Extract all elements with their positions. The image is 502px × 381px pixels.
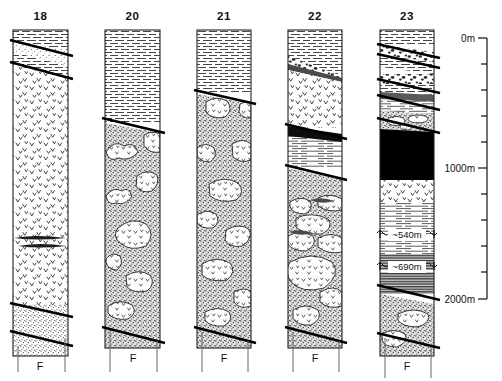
unit-mudstone-top bbox=[380, 30, 434, 45]
unit-mudstone-upper bbox=[13, 30, 68, 41]
column-18-title: 18 bbox=[34, 10, 48, 22]
column-22-body bbox=[287, 30, 342, 348]
unit-coal-black bbox=[380, 129, 434, 180]
column-18[interactable]: 18 F bbox=[10, 10, 73, 372]
column-20[interactable]: 20 bbox=[102, 10, 165, 372]
unit-shale-dark-lower bbox=[380, 272, 434, 294]
figure-canvas: 18 F bbox=[0, 0, 502, 381]
column-21-body bbox=[197, 30, 251, 348]
column-18-fault-label: F bbox=[37, 360, 44, 372]
column-18-body bbox=[13, 30, 68, 356]
column-21-fault-label: F bbox=[221, 352, 228, 364]
depth-label-2000m: 2000m bbox=[444, 294, 475, 305]
column-23[interactable]: 23 bbox=[377, 10, 440, 378]
column-21[interactable]: 21 bbox=[194, 10, 256, 372]
unit-mudstone-upper bbox=[197, 30, 251, 94]
column-23-fault-label: F bbox=[404, 360, 411, 372]
depth-label-1000m: 1000m bbox=[444, 163, 475, 174]
column-22[interactable]: 22 bbox=[285, 10, 347, 372]
column-23-body bbox=[380, 30, 434, 356]
column-20-fault-label: F bbox=[130, 352, 137, 364]
thickness-690-label: ~690m bbox=[392, 261, 421, 272]
column-23-title: 23 bbox=[400, 10, 414, 22]
unit-mudstone-upper bbox=[288, 30, 342, 56]
column-22-fault-label: F bbox=[312, 352, 319, 364]
depth-label-0m: 0m bbox=[461, 33, 475, 44]
unit-volcaniclastic-main bbox=[13, 65, 68, 305]
column-20-body bbox=[105, 30, 160, 348]
unit-mudstone-upper bbox=[105, 30, 160, 123]
unit-siltstone-mid bbox=[380, 240, 434, 254]
unit-sandstone-basal bbox=[13, 305, 68, 356]
unit-volcaniclastic bbox=[380, 180, 434, 202]
thickness-540-label: ~540m bbox=[392, 229, 421, 240]
column-21-title: 21 bbox=[217, 10, 231, 22]
stratigraphic-figure: 18 F bbox=[0, 0, 502, 381]
column-22-title: 22 bbox=[308, 10, 322, 22]
column-20-title: 20 bbox=[126, 10, 140, 22]
